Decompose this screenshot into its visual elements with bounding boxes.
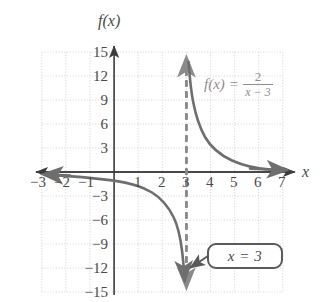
function-equation-label: f(x) = 2 x − 3 (204, 70, 273, 98)
x-axis-label: x (302, 163, 309, 181)
x-tick-label-5: 5 (230, 174, 238, 191)
y-axis-label: f(x) (98, 12, 120, 30)
x-tick-label-2: 2 (158, 174, 166, 191)
y-tick-label-12: 12 (78, 68, 108, 85)
x-tick-label-4: 4 (206, 174, 214, 191)
equation-equals-sign: = (229, 76, 239, 93)
x-tick-label-6: 6 (254, 174, 262, 191)
x-tick-label-neg1: −1 (78, 174, 94, 191)
x-tick-label-3: 3 (182, 174, 190, 191)
graph-figure: f(x) x 15 12 9 6 3 −3 −6 −9 −12 −15 −3 −… (0, 0, 323, 302)
y-tick-label-neg9: −9 (72, 236, 108, 253)
x-tick-label-1: 1 (134, 174, 142, 191)
asymptote-callout: x = 3 (207, 243, 283, 269)
y-tick-label-15: 15 (78, 44, 108, 61)
y-tick-label-neg15: −15 (68, 284, 108, 301)
y-tick-label-neg12: −12 (68, 260, 108, 277)
equation-denominator: x − 3 (243, 85, 272, 98)
y-tick-label-9: 9 (78, 92, 108, 109)
callout-leader-line (190, 256, 208, 268)
asymptote-callout-label: x = 3 (228, 248, 262, 265)
x-tick-label-7: 7 (278, 174, 286, 191)
equation-fraction: 2 x − 3 (243, 70, 272, 98)
equation-function-name: f(x) (204, 76, 225, 93)
x-tick-label-neg3: −3 (30, 174, 46, 191)
y-tick-label-neg6: −6 (72, 212, 108, 229)
y-tick-label-3: 3 (78, 140, 108, 157)
equation-numerator: 2 (252, 70, 265, 84)
y-tick-label-6: 6 (78, 116, 108, 133)
curve-right-arrow (250, 169, 286, 170)
x-tick-label-neg2: −2 (54, 174, 70, 191)
